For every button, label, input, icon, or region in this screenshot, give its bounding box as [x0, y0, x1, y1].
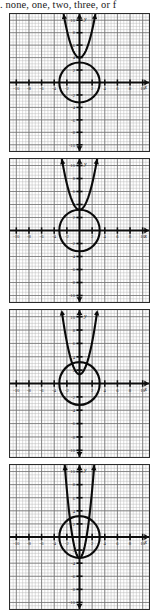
svg-text:-2: -2: [71, 93, 76, 98]
svg-text:-4: -4: [52, 388, 56, 393]
axes: [10, 14, 149, 151]
svg-text:-10: -10: [13, 388, 20, 393]
svg-text:-10: -10: [69, 600, 76, 605]
svg-text:10: 10: [70, 163, 75, 168]
graph-a: -10-8-6-4-2246810-10-8-6-4-2246810xy: [10, 14, 149, 151]
svg-text:10: 10: [70, 469, 75, 474]
svg-text:10: 10: [70, 18, 75, 23]
svg-text:-6: -6: [40, 388, 44, 393]
x-axis-label: x: [143, 538, 147, 545]
graph-c: -10-8-6-4-2246810-10-8-6-4-2246810xy: [10, 310, 149, 457]
svg-text:-10: -10: [69, 448, 76, 453]
svg-text:-2: -2: [65, 388, 69, 393]
svg-text:-2: -2: [65, 541, 70, 546]
x-axis-label: x: [143, 232, 147, 239]
svg-text:-4: -4: [52, 234, 57, 239]
svg-text:-8: -8: [71, 130, 76, 135]
svg-text:-8: -8: [71, 280, 76, 285]
svg-text:-4: -4: [52, 86, 57, 91]
graph-b: -10-8-6-4-2246810-10-8-6-4-2246810xy: [10, 159, 149, 302]
svg-text:-2: -2: [71, 395, 75, 400]
svg-text:-10: -10: [69, 143, 76, 148]
svg-text:-10: -10: [13, 541, 20, 546]
y-axis-label: y: [83, 16, 87, 22]
answer-choice-panel-d[interactable]: -10-8-6-4-2246810-10-8-6-4-2246810xy: [9, 464, 150, 610]
plot-svg-choice-c: -10-8-6-4-2246810-10-8-6-4-2246810xy: [10, 310, 149, 457]
answer-choice-panel-b[interactable]: -10-8-6-4-2246810-10-8-6-4-2246810xy: [9, 158, 150, 303]
y-axis-label: y: [83, 466, 87, 473]
y-axis-label: y: [83, 160, 87, 167]
svg-text:-6: -6: [71, 421, 75, 426]
svg-text:-2: -2: [71, 241, 76, 246]
svg-text:-8: -8: [27, 541, 32, 546]
svg-text:-8: -8: [27, 86, 32, 91]
svg-text:-2: -2: [65, 86, 70, 91]
svg-text:-4: -4: [71, 254, 76, 259]
answer-choice-panel-a[interactable]: -10-8-6-4-2246810-10-8-6-4-2246810xy: [9, 13, 150, 152]
axes: [10, 159, 149, 302]
answer-choice-panel-c[interactable]: -10-8-6-4-2246810-10-8-6-4-2246810xy: [9, 309, 150, 458]
svg-text:-6: -6: [40, 234, 45, 239]
svg-text:-4: -4: [52, 541, 57, 546]
y-axis-label: y: [83, 311, 87, 318]
svg-text:-6: -6: [40, 541, 45, 546]
svg-text:-8: -8: [27, 388, 31, 393]
svg-text:-4: -4: [71, 105, 76, 110]
graph-d: -10-8-6-4-2246810-10-8-6-4-2246810xy: [10, 465, 149, 609]
plot-svg-choice-b: -10-8-6-4-2246810-10-8-6-4-2246810xy: [10, 159, 149, 302]
svg-text:-6: -6: [40, 86, 45, 91]
axes: [10, 310, 149, 457]
question-text: . none, one, two, three, or f: [0, 0, 160, 11]
axes: [10, 465, 149, 609]
svg-text:-2: -2: [65, 234, 70, 239]
answer-choice-graph-list: . none, one, two, three, or f -10-8-6-4-…: [0, 0, 160, 611]
x-axis-label: x: [143, 84, 147, 90]
svg-text:10: 10: [70, 314, 75, 319]
svg-text:-10: -10: [69, 293, 76, 298]
svg-text:-8: -8: [71, 435, 75, 440]
svg-text:-10: -10: [13, 86, 20, 91]
x-axis-label: x: [143, 385, 147, 392]
svg-text:-4: -4: [71, 408, 75, 413]
svg-text:-8: -8: [71, 587, 76, 592]
svg-text:-4: -4: [71, 561, 76, 566]
svg-text:-6: -6: [71, 118, 76, 123]
svg-text:-8: -8: [27, 234, 32, 239]
plot-svg-choice-d: -10-8-6-4-2246810-10-8-6-4-2246810xy: [10, 465, 149, 609]
svg-text:-6: -6: [71, 574, 76, 579]
svg-text:-10: -10: [13, 234, 20, 239]
plot-svg-choice-a: -10-8-6-4-2246810-10-8-6-4-2246810xy: [10, 14, 149, 151]
svg-text:-6: -6: [71, 267, 76, 272]
